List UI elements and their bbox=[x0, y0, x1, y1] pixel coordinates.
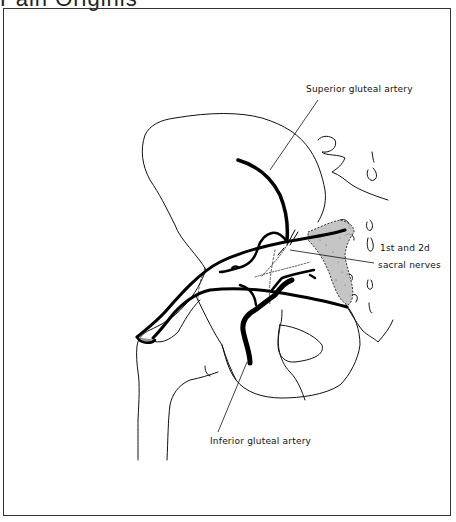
sacrum-loop-2 bbox=[367, 168, 376, 180]
foramen-4 bbox=[369, 303, 372, 313]
label-sacral-nerves-line1: 1st and 2d bbox=[380, 243, 430, 253]
femur-outline-right bbox=[150, 296, 236, 380]
femur-outline-left bbox=[137, 270, 206, 460]
superior-gluteal-artery bbox=[238, 160, 287, 240]
sacrum-lower-outline bbox=[346, 305, 393, 342]
femur-shaft-line bbox=[205, 366, 210, 376]
inferior-branch-3 bbox=[310, 275, 315, 278]
label-sacral-nerves-line2: sacral nerves bbox=[378, 260, 441, 270]
sacrum-outline-top bbox=[318, 136, 388, 200]
label-superior-gluteal-artery: Superior gluteal artery bbox=[306, 84, 413, 94]
foramen-2 bbox=[367, 238, 373, 251]
sacrum-loop-1 bbox=[372, 152, 374, 162]
obturator-foramen bbox=[278, 325, 322, 362]
foramen-3 bbox=[367, 280, 372, 289]
label-inferior-gluteal-artery: Inferior gluteal artery bbox=[210, 436, 311, 446]
superior-branch-loop bbox=[220, 233, 287, 272]
ilium-outline bbox=[142, 114, 325, 271]
foramen-1 bbox=[366, 220, 372, 231]
superior-leader-line bbox=[270, 100, 318, 170]
ischium-inner bbox=[280, 310, 282, 325]
femur-shaft-right bbox=[167, 372, 218, 460]
